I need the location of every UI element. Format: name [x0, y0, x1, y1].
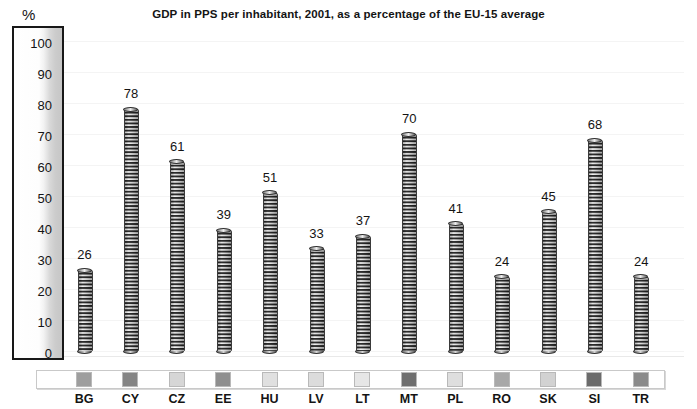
bar-ro[interactable]: [495, 277, 510, 351]
legend-swatch-sk[interactable]: [540, 372, 556, 387]
bar-group-cz[interactable]: 61: [170, 162, 183, 351]
legend-label-pl: PL: [433, 392, 477, 406]
y-tick-label: 70: [38, 129, 52, 144]
legend-swatch-pl[interactable]: [447, 372, 463, 387]
bar-value-label-sk: 45: [529, 189, 569, 204]
bar-group-cy[interactable]: 78: [124, 109, 137, 351]
bar-hu[interactable]: [263, 193, 278, 351]
y-tick-label: 30: [38, 253, 52, 268]
y-tick-label: 90: [38, 67, 52, 82]
bar-top-ellipse: [123, 107, 138, 112]
legend-swatch-tr[interactable]: [633, 372, 649, 387]
legend-label-lt: LT: [340, 392, 384, 406]
bar-value-label-tr: 24: [621, 254, 661, 269]
bar-group-mt[interactable]: 70: [402, 134, 415, 351]
bar-value-label-cz: 61: [157, 139, 197, 154]
legend-label-ee: EE: [201, 392, 245, 406]
y-tick-label: 80: [38, 98, 52, 113]
legend-swatch-si[interactable]: [586, 372, 602, 387]
bar-lv[interactable]: [310, 249, 325, 351]
bar-top-ellipse: [77, 268, 92, 273]
bar-value-label-ee: 39: [204, 207, 244, 222]
gridline: [64, 103, 684, 104]
legend-swatch-cz[interactable]: [169, 372, 185, 387]
y-tick-label: 60: [38, 160, 52, 175]
bar-ee[interactable]: [217, 230, 232, 351]
bar-value-label-pl: 41: [436, 201, 476, 216]
baseline: [64, 356, 684, 357]
legend-swatch-lt[interactable]: [354, 372, 370, 387]
gridline: [64, 41, 684, 42]
bar-top-ellipse: [587, 138, 602, 143]
bar-top-ellipse: [541, 209, 556, 214]
y-axis-unit-label: %: [22, 6, 35, 23]
bar-tr[interactable]: [634, 277, 649, 351]
bar-top-ellipse: [355, 234, 370, 239]
y-tick-label: 0: [45, 346, 52, 361]
bar-value-label-lv: 33: [297, 226, 337, 241]
legend-swatch-ro[interactable]: [494, 372, 510, 387]
bar-value-label-lt: 37: [343, 213, 383, 228]
legend-label-cy: CY: [108, 392, 152, 406]
bar-value-label-ro: 24: [482, 254, 522, 269]
bar-mt[interactable]: [402, 134, 417, 351]
legend-swatch-lv[interactable]: [308, 372, 324, 387]
bar-group-hu[interactable]: 51: [263, 193, 276, 351]
bar-si[interactable]: [588, 140, 603, 351]
bar-value-label-bg: 26: [65, 247, 105, 262]
y-tick-label: 50: [38, 191, 52, 206]
bar-value-label-cy: 78: [111, 86, 151, 101]
bar-group-lt[interactable]: 37: [356, 236, 369, 351]
legend-swatch-ee[interactable]: [215, 372, 231, 387]
legend-swatch-cy[interactable]: [122, 372, 138, 387]
bar-group-tr[interactable]: 24: [634, 277, 647, 351]
bar-value-label-si: 68: [575, 117, 615, 132]
y-tick-label: 100: [30, 36, 52, 51]
legend-label-si: SI: [572, 392, 616, 406]
legend-label-tr: TR: [619, 392, 663, 406]
legend-label-bg: BG: [62, 392, 106, 406]
bar-pl[interactable]: [449, 224, 464, 351]
y-tick-label: 10: [38, 315, 52, 330]
chart-title: GDP in PPS per inhabitant, 2001, as a pe…: [0, 8, 697, 20]
bar-top-ellipse: [216, 228, 231, 233]
y-tick-label: 40: [38, 222, 52, 237]
bar-top-ellipse: [401, 132, 416, 137]
bar-cz[interactable]: [170, 162, 185, 351]
bar-group-pl[interactable]: 41: [449, 224, 462, 351]
legend-label-ro: RO: [480, 392, 524, 406]
legend-label-cz: CZ: [155, 392, 199, 406]
bar-group-sk[interactable]: 45: [542, 212, 555, 352]
legend-swatch-hu[interactable]: [262, 372, 278, 387]
plot-area: 26786139513337704124456824: [64, 26, 684, 356]
legend-label-sk: SK: [526, 392, 570, 406]
bar-group-bg[interactable]: 26: [78, 270, 91, 351]
bar-group-ro[interactable]: 24: [495, 277, 508, 351]
gridline: [64, 72, 684, 73]
gridline: [64, 134, 684, 135]
bar-group-ee[interactable]: 39: [217, 230, 230, 351]
bar-value-label-mt: 70: [389, 111, 429, 126]
y-axis: 1009080706050403020100: [12, 26, 64, 360]
bar-sk[interactable]: [542, 212, 557, 352]
legend-label-lv: LV: [294, 392, 338, 406]
y-tick-label: 20: [38, 284, 52, 299]
legend-swatch-bg[interactable]: [76, 372, 92, 387]
legend-label-mt: MT: [387, 392, 431, 406]
bar-bg[interactable]: [78, 270, 93, 351]
legend-label-hu: HU: [248, 392, 292, 406]
bar-value-label-hu: 51: [250, 170, 290, 185]
legend-swatch-mt[interactable]: [401, 372, 417, 387]
bar-cy[interactable]: [124, 109, 139, 351]
bar-lt[interactable]: [356, 236, 371, 351]
bar-group-si[interactable]: 68: [588, 140, 601, 351]
bar-group-lv[interactable]: 33: [310, 249, 323, 351]
